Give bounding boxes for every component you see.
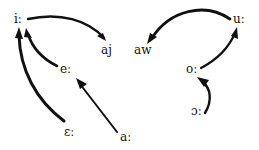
vowel-shift-diagram <box>0 0 259 150</box>
arrow-o-to-u <box>201 33 235 68</box>
arrow-open-e-to-i <box>19 35 64 121</box>
arrow-e-to-i <box>28 34 57 66</box>
arrow-u-to-aw <box>152 10 230 38</box>
arrowhead-e-to-i <box>24 28 32 38</box>
vowel-label-a-long: aː <box>120 131 131 143</box>
arrow-i-to-aj <box>28 16 104 38</box>
vowel-label-open-o-long: ɔː <box>191 105 202 117</box>
arrow-a-to-e <box>80 84 117 132</box>
arrowhead-open-e-to-i <box>15 27 23 39</box>
vowel-label-o-long: oː <box>186 63 197 75</box>
vowel-label-u-long: uː <box>233 13 245 25</box>
arrowhead-a-to-e <box>76 78 87 89</box>
vowel-label-i-long: iː <box>14 13 22 25</box>
diphthong-label-aj: aj <box>101 44 112 56</box>
vowel-label-open-e-long: ɛː <box>64 126 74 138</box>
vowel-label-e-long: eː <box>60 63 71 75</box>
diphthong-label-aw: aw <box>134 44 151 56</box>
